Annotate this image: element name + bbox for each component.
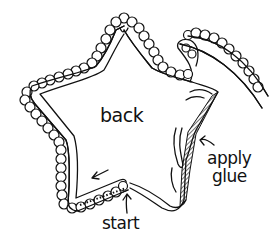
star-trim-illustration: back apply glue start (0, 0, 280, 250)
apply-label: apply (207, 150, 251, 167)
glue-label: glue (212, 168, 247, 185)
start-label: start (102, 215, 139, 232)
glue-arrow (200, 136, 214, 145)
direction-arrow (92, 170, 108, 179)
back-label: back (100, 106, 143, 125)
start-arrow (123, 194, 131, 213)
thread (130, 183, 186, 207)
